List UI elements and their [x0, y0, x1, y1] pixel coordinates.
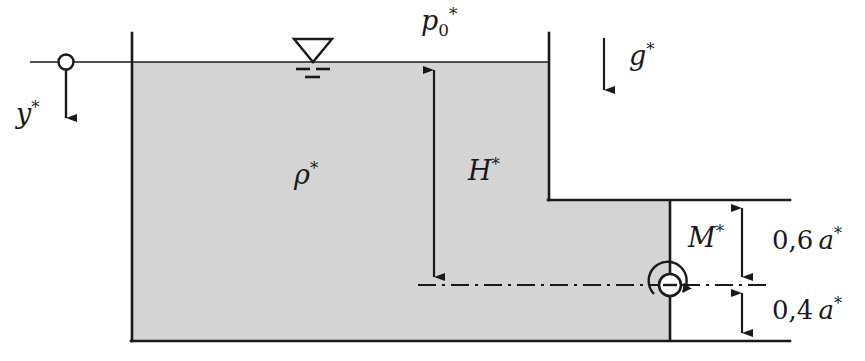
y-axis-label: y*: [16, 99, 40, 127]
origin-circle-icon: [59, 55, 74, 70]
ambient-pressure-label: p0*: [421, 6, 457, 39]
upper-dimension-label: 0,6 a*: [772, 226, 842, 253]
density-label: ρ*: [294, 160, 318, 188]
diagram-canvas: [0, 0, 865, 361]
lower-dimension-label: 0,4 a*: [772, 296, 842, 323]
fluid-fill: [132, 62, 670, 341]
moment-label: M*: [688, 223, 724, 251]
hydrostatic-gate-diagram: y* p0* g* ρ* H* M* 0,6 a* 0,4 a*: [0, 0, 865, 361]
depth-label: H*: [468, 156, 500, 184]
gravity-label: g*: [629, 41, 655, 69]
hinge-circle-icon: [659, 274, 681, 296]
fluid-region: [132, 62, 670, 341]
